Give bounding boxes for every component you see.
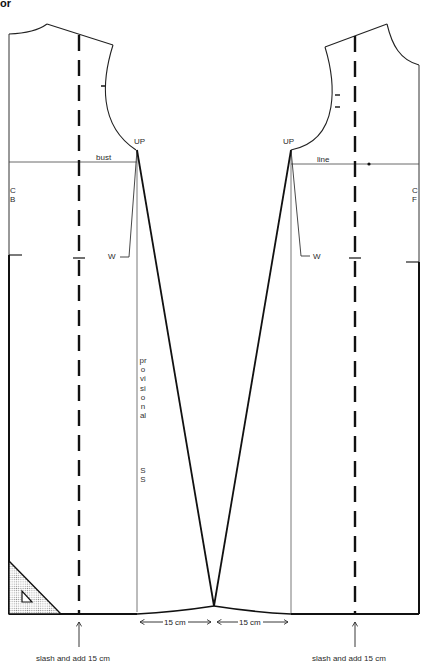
front-slash-note: slash and add 15 cm (312, 655, 386, 663)
front-armhole (291, 47, 332, 150)
back-stippled-corner (9, 561, 61, 614)
pattern-diagram (0, 0, 426, 666)
front-dart (291, 150, 310, 256)
front-hem-curve (214, 606, 291, 614)
back-up-label: UP (134, 138, 145, 146)
bust-point-dot (367, 162, 370, 165)
back-waist-label: W (108, 253, 116, 261)
hem-extension-left-label: 15 cm (164, 618, 186, 627)
centre-back-label-b: B (10, 196, 15, 204)
back-flared-side-seam (137, 150, 214, 606)
centre-back-label-c: C (10, 187, 16, 195)
side-seam-abbrev-label: SS (139, 466, 147, 484)
back-neckline (9, 24, 47, 34)
front-panel (214, 24, 419, 647)
centre-front-label-c: C (412, 187, 418, 195)
back-slash-note: slash and add 15 cm (36, 655, 110, 663)
centre-front-label-f: F (412, 196, 417, 204)
provisional-side-seam-label: provisional (139, 356, 147, 420)
front-flared-side-seam (214, 150, 291, 606)
heading-fragment: or (0, 0, 11, 9)
front-waist-label: W (313, 253, 321, 261)
front-up-label: UP (283, 138, 294, 146)
back-dart (120, 150, 137, 257)
back-hem-curve (137, 606, 214, 614)
hem-extension-right-label: 15 cm (239, 618, 261, 627)
front-neckline (387, 24, 419, 65)
back-panel (9, 24, 214, 647)
back-armhole (105, 45, 136, 150)
back-bust-label: bust (96, 154, 111, 162)
front-line-label: line (317, 156, 329, 164)
